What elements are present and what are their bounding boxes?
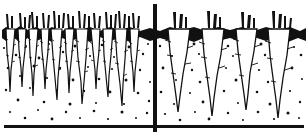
ground-baseline bbox=[4, 125, 304, 128]
vertical-divider-line bbox=[153, 4, 157, 132]
illustration-canvas bbox=[0, 0, 308, 138]
carrot-thinning-illustration bbox=[0, 0, 308, 138]
